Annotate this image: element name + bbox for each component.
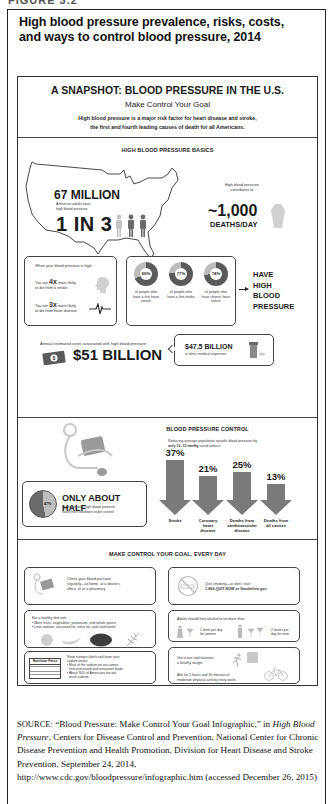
- ratio-text: 1 IN 3: [56, 213, 112, 236]
- donut-pct: 77%: [175, 268, 187, 280]
- count-number: 67 MILLION: [54, 188, 120, 202]
- donut-box: 69% of people who have a first heart att…: [126, 256, 236, 326]
- reduction-pct: 13%: [256, 471, 296, 482]
- risk-text: to die from heart disease: [35, 309, 77, 314]
- brain-head-icon: [95, 277, 109, 293]
- coffin-icon: [271, 204, 285, 228]
- runner-icon: [231, 653, 243, 667]
- risk-stroke: You are 4x more likely to die from a str…: [35, 279, 76, 291]
- donut-caption: of people who have a first stroke: [166, 290, 196, 299]
- caption-line: high blood pressure: [56, 207, 91, 212]
- bp-cuff-small-icon: [31, 572, 59, 600]
- have-hbp-line: HAVE: [253, 270, 294, 281]
- text-line: moderate physical activity every week: [177, 678, 236, 683]
- label-line: disease: [193, 528, 223, 533]
- reduction-pct: 25%: [222, 459, 262, 470]
- heartbeat-icon: [89, 303, 111, 315]
- infographic: A SNAPSHOT: BLOOD PRESSURE IN THE U.S. M…: [17, 76, 318, 686]
- active-text: Get active and maintain a healthy weight: [177, 656, 214, 665]
- medical-costs-value: $47.5 BILLION: [185, 343, 232, 350]
- people-icon: [114, 214, 150, 238]
- text-line: a healthy weight: [177, 661, 214, 666]
- arrow-right-head: [245, 287, 249, 291]
- donut-ring: 74%: [204, 262, 228, 286]
- quit-smoking-card: Quit smoking—or don't start 1-800-QUIT-N…: [168, 567, 300, 605]
- goal-title: MAKE CONTROL YOUR GOAL, EVERY DAY: [18, 551, 317, 557]
- check-bp-card: Check your blood pressure regularly—at h…: [24, 567, 156, 605]
- basics-title: HIGH BLOOD PRESSURE BASICS: [18, 147, 317, 153]
- medical-costs-box: $47.5 BILLION in direct medical expenses: [174, 334, 274, 366]
- donut-caption: of people who have a first heart attack: [131, 290, 161, 304]
- control-section: BLOOD PRESSURE CONTROL 47% ONLY ABOUT HA…: [18, 418, 317, 540]
- money-icon: $: [42, 349, 68, 365]
- have-hbp-line: BLOOD: [253, 291, 294, 302]
- risk-heart: You are 3x more likely to die from heart…: [35, 302, 77, 314]
- costs-total: $51 BILLION: [73, 346, 162, 363]
- caption-line: of people with high blood pressure: [62, 505, 115, 510]
- label-line: Stroke: [160, 518, 190, 523]
- risk-box: When your blood pressure is high: You ar…: [24, 256, 117, 326]
- text-line: for women: [200, 632, 222, 636]
- banana-icon: [61, 637, 81, 644]
- half-caption: of people with high blood pressure have …: [62, 505, 115, 514]
- snapshot-title: A SNAPSHOT: BLOOD PRESSURE IN THE U.S.: [18, 84, 317, 96]
- snapshot-body: High blood pressure is a major risk fact…: [18, 114, 317, 132]
- us-map-icon: [22, 156, 192, 266]
- quitline-link: 1-800-QUIT-NOW or Smokefree.gov: [205, 587, 267, 592]
- apple-icon: [41, 634, 53, 646]
- alcohol-card: Adults should limit alcohol to no more t…: [168, 610, 300, 642]
- diet-text: Eat a healthy diet with: • More fruits, …: [32, 616, 116, 630]
- risk-multiplier: 4x: [49, 278, 57, 285]
- alcohol-intro: Adults should limit alcohol to no more t…: [177, 617, 246, 622]
- bread-icon: [90, 634, 112, 647]
- count-caption: American adults have high blood pressure: [56, 202, 91, 211]
- caption-line: American adults have: [56, 202, 91, 207]
- diet-item: Less sodium, saturated fat, trans fat, a…: [34, 625, 115, 629]
- risk-text: more likely: [58, 281, 76, 285]
- label-line: all causes: [261, 523, 291, 528]
- label-line: disease: [227, 528, 257, 533]
- bicycle-icon: [264, 667, 288, 681]
- food-icons: [39, 631, 149, 647]
- risk-multiplier: 3x: [49, 301, 57, 308]
- have-hbp-line: HIGH: [253, 281, 294, 292]
- snapshot-subtitle: Make Control Your Goal: [18, 100, 317, 109]
- snapshot-body-line: the first and fourth leading causes of d…: [18, 123, 317, 132]
- reduction-label: Coronary heart disease: [193, 518, 223, 533]
- donut-pct: 69%: [140, 268, 152, 280]
- wheat-icon: [127, 633, 139, 646]
- deaths-unit: DEATHS/DAY: [210, 220, 258, 229]
- no-smoking-icon: [177, 575, 199, 597]
- sodium-item: much sodium: [69, 675, 89, 679]
- snapshot-body-line: High blood pressure is a major risk fact…: [18, 114, 317, 123]
- donut-ring: 69%: [134, 262, 158, 286]
- text-line: Get active and maintain: [177, 656, 214, 661]
- have-hbp-line: PRESSURE: [253, 302, 294, 313]
- medical-costs-caption: in direct medical expenses: [185, 352, 226, 357]
- sodium-card: Nutrition Facts Read nutrition labels an…: [24, 651, 156, 684]
- svg-text:$: $: [53, 355, 56, 361]
- risk-text: more likely: [58, 304, 76, 308]
- risk-text: You are: [35, 304, 48, 308]
- healthy-diet-card: Eat a healthy diet with: • More fruits, …: [24, 610, 156, 648]
- deaths-caption: High blood pressure contributes to: [212, 183, 272, 193]
- half-pie-chart: 47%: [29, 490, 57, 518]
- text-line: Aim for 2 hours and 30 minutes of: [177, 673, 236, 678]
- source-text: “Blood Pressure: Make Control Your Goal …: [55, 719, 270, 729]
- risk-intro: When your blood pressure is high:: [35, 264, 93, 269]
- nutrition-facts-label: Nutrition Facts: [30, 659, 60, 665]
- man-drinks-icon: [237, 624, 267, 639]
- quit-smoking-text: Quit smoking—or don't start 1-800-QUIT-N…: [205, 582, 267, 592]
- alcohol-women: 1 drink per day for women: [200, 628, 222, 636]
- have-hbp-label: HAVE HIGH BLOOD PRESSURE: [253, 270, 294, 312]
- reduction-label: Deaths from cardiovascular disease: [227, 518, 257, 533]
- caption-line: could reduce:: [200, 444, 222, 448]
- sodium-text: Read nutrition labels and lower your sod…: [67, 655, 123, 680]
- woman-drink-icon: [177, 625, 197, 639]
- deaths-number: ~1,000: [208, 202, 257, 220]
- alcohol-men: 2 drinks per day for men: [271, 628, 289, 636]
- basics-section: HIGH BLOOD PRESSURE BASICS 67 MILLION Am…: [18, 138, 317, 418]
- activity-text: Aim for 2 hours and 30 minutes of modera…: [177, 673, 236, 682]
- activity-card: Get active and maintain a healthy weight…: [168, 647, 300, 684]
- figure-title: High blood pressure prevalence, risks, c…: [19, 15, 309, 45]
